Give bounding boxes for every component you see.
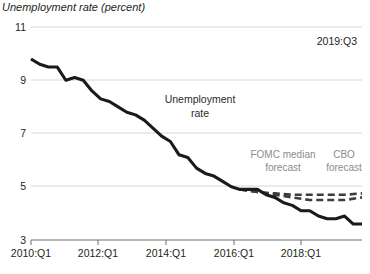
xtick-label-2014: 2014:Q1 bbox=[146, 247, 186, 259]
ytick-label-11: 11 bbox=[15, 21, 26, 33]
xtick-label-2012: 2012:Q1 bbox=[78, 247, 118, 259]
ytick-label-7: 7 bbox=[20, 127, 26, 139]
chart-svg: Unemployment rate (percent) 11 9 7 5 3 2… bbox=[0, 0, 370, 274]
annotation-unemployment-rate-line1: Unemployment bbox=[165, 93, 236, 105]
chart-title: Unemployment rate (percent) bbox=[2, 1, 145, 13]
unemployment-rate-chart: Unemployment rate (percent) 11 9 7 5 3 2… bbox=[0, 0, 370, 274]
annotation-fomc-forecast-line2: forecast bbox=[265, 162, 301, 173]
xtick-label-2010: 2010:Q1 bbox=[11, 247, 51, 259]
y-axis-labels: 11 9 7 5 3 bbox=[15, 21, 26, 246]
series-line-unemployment-rate bbox=[31, 59, 362, 224]
ytick-label-5: 5 bbox=[20, 180, 26, 192]
annotation-cbo-forecast-line1: CBO bbox=[333, 149, 355, 160]
x-axis-ticks bbox=[31, 240, 301, 245]
ytick-label-3: 3 bbox=[20, 234, 26, 246]
annotation-unemployment-rate-line2: rate bbox=[191, 107, 209, 119]
xtick-label-2016: 2016:Q1 bbox=[214, 247, 254, 259]
annotation-unemployment-rate: Unemployment rate bbox=[165, 93, 236, 119]
x-axis-labels: 2010:Q1 2012:Q1 2014:Q1 2016:Q1 2018:Q1 bbox=[11, 247, 321, 259]
annotation-date-2019q3: 2019:Q3 bbox=[317, 35, 357, 47]
xtick-label-2018: 2018:Q1 bbox=[281, 247, 321, 259]
ytick-label-9: 9 bbox=[20, 74, 26, 86]
annotation-cbo-forecast-line2: forecast bbox=[326, 162, 362, 173]
annotation-fomc-forecast-line1: FOMC median bbox=[250, 149, 315, 160]
annotation-fomc-forecast: FOMC median forecast bbox=[250, 149, 315, 173]
annotation-cbo-forecast: CBO forecast bbox=[326, 149, 362, 173]
